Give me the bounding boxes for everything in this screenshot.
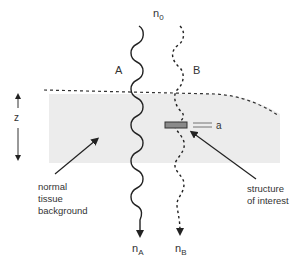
thickness-label: a: [216, 120, 222, 131]
diagram-canvas: z n0 A B a normal tissue background stru…: [0, 0, 307, 265]
nA-label: nA: [132, 242, 144, 257]
n0-label: n0: [153, 7, 164, 22]
z-axis-label: z: [14, 112, 19, 123]
structure-rect: [165, 122, 187, 128]
nB-label: nB: [175, 242, 186, 257]
ray-b-label: B: [193, 64, 200, 76]
ray-a-label: A: [115, 64, 123, 76]
structure-label: structure of interest: [247, 183, 289, 206]
background-label: normal tissue background: [38, 181, 88, 216]
